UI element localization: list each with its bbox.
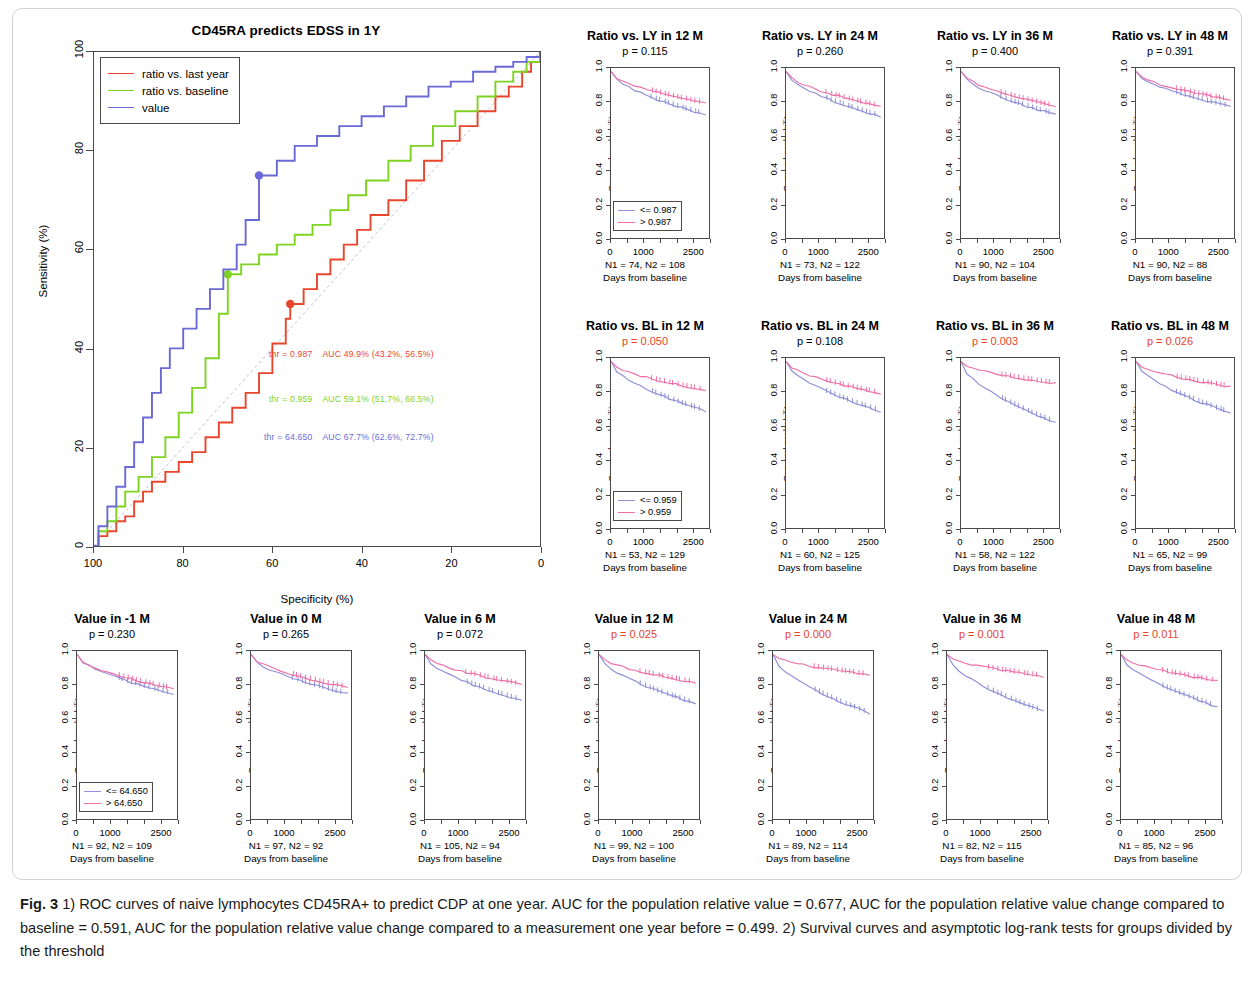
roc-y-tickmark bbox=[86, 150, 93, 151]
km-x-tickmark bbox=[475, 820, 476, 824]
km-p-value: p = 0.072 bbox=[379, 628, 541, 640]
km-y-tick-label: 0.2 bbox=[930, 772, 940, 798]
km-x-tickmark bbox=[700, 820, 701, 824]
km-y-tickmark bbox=[606, 205, 610, 206]
caption-label: Fig. 3 bbox=[20, 896, 58, 912]
km-x-tick-label: 1000 bbox=[962, 827, 998, 838]
km-y-tick-label: 0.8 bbox=[1119, 87, 1129, 113]
km-x-tick-label: 2500 bbox=[1025, 246, 1061, 257]
km-y-tick-label: 0.2 bbox=[1119, 191, 1129, 217]
km-curves-svg bbox=[251, 651, 351, 819]
km-x-tickmark bbox=[963, 820, 964, 824]
km-x-tickmark bbox=[1060, 239, 1061, 243]
km-x-tickmark bbox=[1235, 529, 1236, 533]
km-y-tickmark bbox=[1131, 495, 1135, 496]
roc-y-tickmark bbox=[86, 448, 93, 449]
km-n-counts: N1 = 53, N2 = 129 bbox=[565, 549, 725, 560]
km-curves-svg bbox=[1136, 68, 1234, 238]
km-y-tickmark bbox=[768, 684, 772, 685]
km-p-value: p = 0.001 bbox=[901, 628, 1063, 640]
km-y-tick-label: 0.2 bbox=[944, 191, 954, 217]
km-p-value: p = 0.391 bbox=[1090, 45, 1250, 57]
km-x-tickmark bbox=[997, 820, 998, 824]
km-x-tickmark bbox=[660, 529, 661, 533]
km-y-tick-label: 0.8 bbox=[594, 377, 604, 403]
km-curves-svg bbox=[773, 651, 873, 819]
km-x-tickmark bbox=[301, 820, 302, 824]
km-y-tickmark bbox=[768, 752, 772, 753]
km-y-tick-label: 0.6 bbox=[1104, 704, 1114, 730]
roc-legend-label: ratio vs. baseline bbox=[142, 85, 228, 97]
roc-y-tickmark bbox=[86, 349, 93, 350]
km-y-tickmark bbox=[594, 650, 598, 651]
km-x-tickmark bbox=[335, 820, 336, 824]
km-x-tickmark bbox=[1218, 529, 1219, 533]
km-y-tick-label: 1.0 bbox=[769, 343, 779, 369]
km-x-axis-label: Days from baseline bbox=[31, 853, 193, 864]
km-y-tick-label: 0.8 bbox=[408, 670, 418, 696]
km-x-tickmark bbox=[1010, 529, 1011, 533]
km-x-tickmark bbox=[1043, 529, 1044, 533]
km-x-tick-label: 1000 bbox=[1150, 246, 1186, 257]
roc-curves-svg bbox=[94, 52, 540, 546]
roc-legend-item: ratio vs. baseline bbox=[108, 82, 229, 99]
roc-x-tick-label: 40 bbox=[342, 557, 382, 569]
km-legend-line bbox=[84, 803, 101, 804]
km-y-tickmark bbox=[594, 752, 598, 753]
km-legend-label: <= 64.650 bbox=[106, 786, 148, 796]
km-y-tickmark bbox=[956, 136, 960, 137]
km-y-tickmark bbox=[956, 426, 960, 427]
km-legend: <= 0.959> 0.959 bbox=[613, 491, 682, 521]
km-x-axis-label: Days from baseline bbox=[565, 562, 725, 573]
km-y-tickmark bbox=[1116, 650, 1120, 651]
km-n-counts: N1 = 74, N2 = 108 bbox=[565, 259, 725, 270]
km-panel: Ratio vs. LY in 12 Mp = 0.115Survival pr… bbox=[565, 29, 725, 299]
km-x-axis-label: Days from baseline bbox=[901, 853, 1063, 864]
km-y-tick-label: 0.2 bbox=[756, 772, 766, 798]
km-x-axis-label: Days from baseline bbox=[379, 853, 541, 864]
km-y-tickmark bbox=[781, 205, 785, 206]
roc-x-axis-label: Specificity (%) bbox=[93, 593, 541, 605]
km-y-tickmark bbox=[956, 357, 960, 358]
km-curves-svg bbox=[1121, 651, 1221, 819]
km-y-tickmark bbox=[1116, 684, 1120, 685]
km-legend-line bbox=[618, 222, 635, 223]
km-x-tickmark bbox=[250, 820, 251, 824]
km-panel-title: Value in 6 M bbox=[379, 612, 541, 626]
km-y-tick-label: 0.4 bbox=[944, 156, 954, 182]
km-n-counts: N1 = 92, N2 = 109 bbox=[31, 840, 193, 851]
km-y-tickmark bbox=[1131, 426, 1135, 427]
km-x-tick-label: 1000 bbox=[975, 536, 1011, 547]
km-x-tick-label: 0 bbox=[928, 827, 964, 838]
km-y-tick-label: 0.4 bbox=[594, 156, 604, 182]
km-y-tick-label: 1.0 bbox=[1104, 636, 1114, 662]
km-x-tickmark bbox=[1222, 820, 1223, 824]
km-x-axis-label: Days from baseline bbox=[1075, 853, 1237, 864]
km-y-tick-label: 0.6 bbox=[1119, 122, 1129, 148]
km-plot-area bbox=[1135, 67, 1235, 239]
km-y-tickmark bbox=[1131, 136, 1135, 137]
figure-page: CD45RA predicts EDSS in 1Y Sensitivity (… bbox=[0, 0, 1254, 989]
km-panel-title: Ratio vs. BL in 48 M bbox=[1090, 319, 1250, 333]
km-x-tickmark bbox=[666, 820, 667, 824]
km-y-tick-label: 0.2 bbox=[1104, 772, 1114, 798]
km-x-tick-label: 2500 bbox=[317, 827, 353, 838]
km-y-tickmark bbox=[956, 495, 960, 496]
roc-y-tickmark bbox=[86, 249, 93, 250]
km-panel: Value in 48 Mp = 0.011Survival probabili… bbox=[1075, 612, 1237, 880]
km-y-tickmark bbox=[781, 136, 785, 137]
km-x-tick-label: 0 bbox=[232, 827, 268, 838]
km-x-tick-label: 0 bbox=[767, 246, 803, 257]
roc-annot-threshold: thr = 0.959 bbox=[269, 394, 313, 404]
km-y-tickmark bbox=[1131, 391, 1135, 392]
km-y-tickmark bbox=[246, 786, 250, 787]
km-x-tickmark bbox=[441, 820, 442, 824]
km-plot-area bbox=[1135, 357, 1235, 529]
roc-x-tick-label: 0 bbox=[521, 557, 561, 569]
km-y-tick-label: 0.6 bbox=[594, 122, 604, 148]
km-legend-item: > 0.959 bbox=[618, 506, 677, 518]
km-y-tickmark bbox=[956, 101, 960, 102]
roc-y-tick-label: 80 bbox=[73, 128, 85, 168]
km-x-tickmark bbox=[1171, 820, 1172, 824]
km-x-tickmark bbox=[789, 820, 790, 824]
